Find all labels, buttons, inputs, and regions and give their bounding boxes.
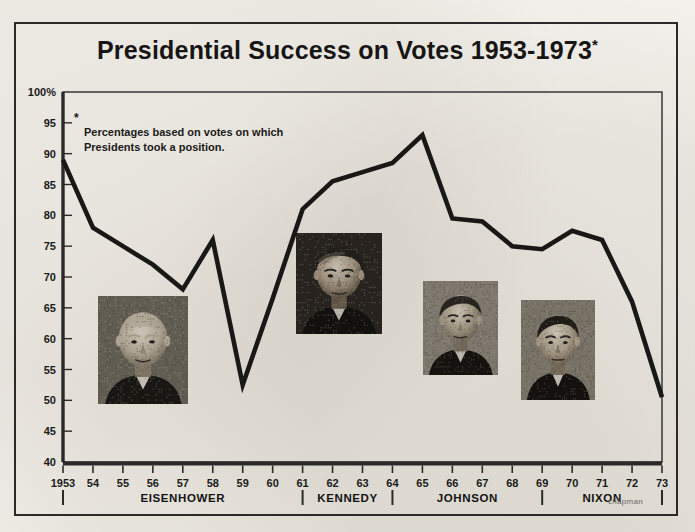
chart-page: Presidential Success on Votes 1953-1973*… bbox=[0, 0, 695, 532]
y-tick-label: 40 bbox=[44, 456, 56, 468]
y-tick-label: 55 bbox=[44, 364, 56, 376]
x-tick-label: 57 bbox=[177, 477, 189, 489]
artist-signature: chapman bbox=[608, 497, 643, 506]
y-tick-label: 90 bbox=[44, 148, 56, 160]
y-tick-label: 50 bbox=[44, 394, 56, 406]
president-band-label-eisenhower: EISENHOWER bbox=[141, 492, 226, 504]
x-tick-label: 65 bbox=[416, 477, 428, 489]
x-tick-label: 69 bbox=[536, 477, 548, 489]
x-tick-label: 67 bbox=[476, 477, 488, 489]
x-tick-label: 68 bbox=[506, 477, 518, 489]
x-tick-label: 64 bbox=[386, 477, 399, 489]
x-tick-label: 61 bbox=[296, 477, 308, 489]
data-series-line bbox=[63, 135, 662, 397]
footnote-text: Percentages based on votes on which Pres… bbox=[84, 126, 283, 153]
x-tick-label: 70 bbox=[566, 477, 578, 489]
x-axis: 1953545556575859606162636465666768697071… bbox=[51, 466, 668, 490]
x-tick-label: 56 bbox=[147, 477, 159, 489]
x-tick-label: 60 bbox=[267, 477, 279, 489]
x-tick-label: 63 bbox=[356, 477, 368, 489]
x-tick-label: 54 bbox=[87, 477, 100, 489]
y-tick-label: 85 bbox=[44, 179, 56, 191]
y-tick-label: 75 bbox=[44, 240, 56, 252]
data-line bbox=[63, 135, 662, 397]
footnote-asterisk: * bbox=[74, 111, 79, 126]
x-tick-label: 72 bbox=[626, 477, 638, 489]
line-chart: 404550556065707580859095100% 19535455565… bbox=[0, 0, 695, 532]
president-band-label-kennedy: KENNEDY bbox=[317, 492, 377, 504]
y-tick-label: 60 bbox=[44, 333, 56, 345]
y-tick-label: 80 bbox=[44, 209, 56, 221]
x-tick-label: 59 bbox=[237, 477, 249, 489]
president-band-label-johnson: JOHNSON bbox=[437, 492, 498, 504]
x-tick-label: 55 bbox=[117, 477, 129, 489]
y-axis: 404550556065707580859095100% bbox=[28, 86, 72, 468]
x-tick-label: 1953 bbox=[51, 477, 75, 489]
x-tick-label: 71 bbox=[596, 477, 608, 489]
y-tick-label: 100% bbox=[28, 86, 56, 98]
y-tick-label: 65 bbox=[44, 302, 56, 314]
x-tick-label: 73 bbox=[656, 477, 668, 489]
president-bands: EISENHOWERKENNEDYJOHNSONNIXON bbox=[63, 490, 662, 505]
x-tick-label: 62 bbox=[326, 477, 338, 489]
footnote: *Percentages based on votes on which Pre… bbox=[84, 110, 283, 155]
x-tick-label: 66 bbox=[446, 477, 458, 489]
y-tick-label: 45 bbox=[44, 425, 56, 437]
y-tick-label: 70 bbox=[44, 271, 56, 283]
y-tick-label: 95 bbox=[44, 117, 56, 129]
x-tick-label: 58 bbox=[207, 477, 219, 489]
